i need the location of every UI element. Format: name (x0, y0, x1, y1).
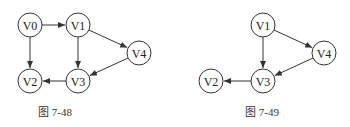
node-v1: V1 (251, 13, 275, 37)
node-label: V4 (132, 47, 147, 61)
figure-7-48: V0V1V4V2V3图 7-48 (18, 13, 151, 118)
node-label: V1 (71, 19, 86, 33)
edge-v4-v3 (275, 58, 313, 76)
node-label: V4 (317, 47, 332, 61)
node-label: V2 (204, 75, 219, 89)
node-label: V3 (256, 75, 271, 89)
figure-caption: 图 7-49 (245, 106, 279, 118)
node-v2: V2 (18, 69, 42, 93)
edge-v1-v4 (89, 30, 127, 48)
node-v1: V1 (66, 13, 90, 37)
node-v0: V0 (18, 13, 42, 37)
node-label: V1 (256, 19, 271, 33)
node-label: V0 (23, 19, 38, 33)
figure-caption: 图 7-48 (38, 106, 72, 118)
graph-diagram: V0V1V4V2V3图 7-48 V1V4V2V3图 7-49 (0, 0, 350, 127)
node-label: V2 (23, 75, 38, 89)
node-v3: V3 (66, 69, 90, 93)
edge-v4-v3 (90, 58, 128, 76)
figure-7-49: V1V4V2V3图 7-49 (199, 13, 336, 118)
node-v4: V4 (127, 41, 151, 65)
node-v2: V2 (199, 69, 223, 93)
node-v4: V4 (312, 41, 336, 65)
node-label: V3 (71, 75, 86, 89)
edge-v1-v4 (274, 30, 312, 48)
node-v3: V3 (251, 69, 275, 93)
